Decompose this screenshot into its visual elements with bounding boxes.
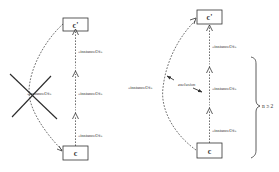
right-top-node: c' (197, 10, 222, 24)
left-panel: c' c «instanceOf» (10, 18, 103, 160)
left-bottom-node-label: c (74, 149, 78, 158)
right-chain-label-2: «instanceOf» (212, 86, 237, 91)
brace-icon (251, 57, 260, 158)
arrowhead-icon (190, 18, 196, 24)
right-chain-label-3: «instanceOf» (212, 44, 237, 49)
right-panel: c' c «instanceOf» «i (128, 10, 274, 158)
exclusion-arrow-left-icon (167, 76, 174, 80)
instance-of-diagram: c' c «instanceOf» (0, 0, 279, 172)
right-chain-arrowheads (207, 25, 213, 114)
left-bottom-node: c (63, 146, 88, 160)
right-bottom-node-label: c (208, 147, 212, 156)
right-direct-label: «instanceOf» (128, 85, 153, 90)
left-direct-instanceof-arrow (29, 24, 63, 150)
exclusion-arrow-right-icon (193, 88, 202, 92)
right-bottom-node: c (197, 143, 222, 158)
left-chain-label-3: «instanceOf» (78, 49, 103, 54)
cross-out-icon (10, 74, 57, 119)
exclusion-label: exclusion (178, 82, 196, 87)
arrowhead-icon (57, 146, 62, 151)
left-chain-label-2: «instanceOf» (78, 91, 103, 96)
arrowhead-icon (207, 108, 213, 114)
left-chain-label-1: «instanceOf» (78, 133, 103, 138)
right-chain-label-1: «instanceOf» (212, 128, 237, 133)
right-top-node-label: c' (207, 13, 213, 22)
brace-label: n ≥ 2 (262, 103, 274, 109)
